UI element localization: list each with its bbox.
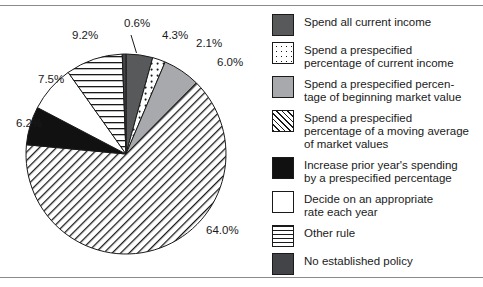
legend-item[interactable]: Decide on an appropriaterate each year	[272, 191, 480, 219]
legend-item-label: Spend all current income	[304, 14, 431, 29]
legend-swatch-decide-appropriate-rate	[272, 191, 294, 213]
legend-item[interactable]: No established policy	[272, 253, 480, 275]
legend-item-label: Increase prior year's spendingby a presp…	[304, 157, 458, 185]
legend-item-label: Decide on an appropriaterate each year	[304, 191, 433, 219]
legend-swatch-spend-all-current-income	[272, 14, 294, 36]
legend-item[interactable]: Increase prior year's spendingby a presp…	[272, 157, 480, 185]
legend-item-label: No established policy	[304, 253, 413, 268]
legend-item[interactable]: Spend all current income	[272, 14, 480, 36]
legend-item[interactable]: Spend a prespecifiedpercentage of a movi…	[272, 110, 480, 151]
figure-container: 0.6%4.3%2.1%6.0%64.0%6.2%7.5%9.2% Spend …	[0, 0, 483, 287]
legend-swatch-other-rule	[272, 225, 294, 247]
legend-swatch-increase-prior-years-spending	[272, 157, 294, 179]
leader-lines-group	[131, 35, 137, 53]
legend-item[interactable]: Other rule	[272, 225, 480, 247]
legend-swatch-prespecified-pct-current-income	[272, 42, 294, 64]
legend-item-label: Other rule	[304, 225, 355, 240]
pie-chart-area: 0.6%4.3%2.1%6.0%64.0%6.2%7.5%9.2%	[0, 8, 252, 274]
legend-item-label: Spend a prespecifiedpercentage of a movi…	[304, 110, 469, 151]
pie-chart-svg	[0, 8, 252, 274]
chart-legend: Spend all current incomeSpend a prespeci…	[272, 14, 480, 281]
legend-swatch-prespecified-pct-beginning-market-value	[272, 76, 294, 98]
legend-item[interactable]: Spend a prespecified percen-tage of begi…	[272, 76, 480, 104]
legend-item-label: Spend a prespecified percen-tage of begi…	[304, 76, 461, 104]
legend-swatch-prespecified-pct-moving-average	[272, 110, 294, 132]
legend-item[interactable]: Spend a prespecifiedpercentage of curren…	[272, 42, 480, 70]
legend-item-label: Spend a prespecifiedpercentage of curren…	[304, 42, 454, 70]
pie-slices-group	[26, 54, 226, 254]
figure-top-rule	[0, 5, 483, 6]
legend-swatch-no-established-policy	[272, 253, 294, 275]
